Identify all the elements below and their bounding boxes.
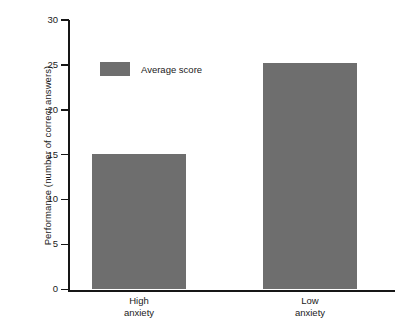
bar-chart: Performance (number of correct answers) …	[0, 0, 414, 335]
x-category-label-high-anxiety: High anxiety	[64, 295, 214, 318]
y-tick-mark-0	[61, 289, 69, 290]
x-axis-line	[68, 290, 395, 292]
y-tick-mark-10	[61, 199, 69, 200]
y-tick-label-10: 10	[18, 194, 58, 204]
legend: Average score	[100, 62, 202, 76]
y-tick-label-20: 20	[18, 105, 58, 115]
y-tick-label-5: 5	[18, 239, 58, 249]
bar-high-anxiety[interactable]	[92, 154, 186, 290]
y-tick-label-0: 0	[18, 284, 58, 294]
y-tick-label-15: 15	[18, 150, 58, 160]
y-axis-line	[68, 20, 70, 291]
y-tick-mark-30	[61, 19, 69, 20]
y-tick-label-30: 30	[18, 15, 58, 25]
x-category-label-low-anxiety: Low anxiety	[235, 295, 385, 318]
y-tick-label-25: 25	[18, 60, 58, 70]
legend-swatch-average-score	[100, 62, 130, 76]
x-category-label-high-anxiety-line1: High	[64, 295, 214, 307]
y-tick-mark-25	[61, 64, 69, 65]
bar-low-anxiety[interactable]	[263, 63, 357, 289]
y-tick-mark-20	[61, 109, 69, 110]
x-category-label-low-anxiety-line2: anxiety	[235, 307, 385, 319]
legend-label-average-score: Average score	[141, 64, 202, 75]
x-category-label-low-anxiety-line1: Low	[235, 295, 385, 307]
y-tick-mark-5	[61, 244, 69, 245]
y-tick-mark-15	[61, 154, 69, 155]
x-category-label-high-anxiety-line2: anxiety	[64, 307, 214, 319]
